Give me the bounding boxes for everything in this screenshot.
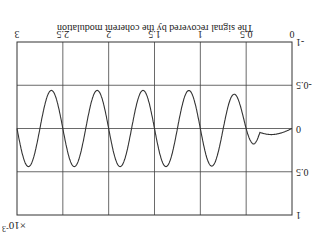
svg-text:1: 1 xyxy=(296,210,301,221)
rotated-chart: 00.511.522.53 -1-0.500.51 ×10-3 The sign… xyxy=(0,0,326,241)
svg-text:-0.5: -0.5 xyxy=(296,80,312,91)
svg-text:-1: -1 xyxy=(296,37,304,48)
svg-text:3: 3 xyxy=(15,29,20,40)
y-tick-labels: -1-0.500.51 xyxy=(296,37,312,221)
chart-title: The signal recovered by the coherent mod… xyxy=(57,23,253,34)
x-multiplier: ×10-3 xyxy=(2,220,26,233)
svg-text:0: 0 xyxy=(290,29,295,40)
svg-text:0: 0 xyxy=(296,124,301,135)
svg-text:0.5: 0.5 xyxy=(296,167,309,178)
chart-svg: 00.511.522.53 -1-0.500.51 ×10-3 The sign… xyxy=(0,0,326,241)
